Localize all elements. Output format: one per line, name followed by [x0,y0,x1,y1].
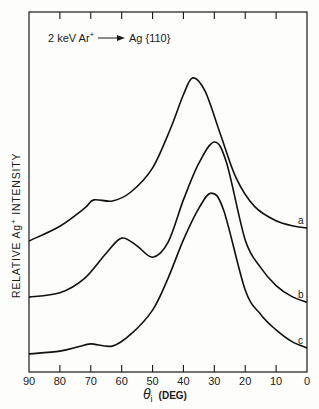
curve-a [29,78,307,241]
curve-labels: abc [298,215,304,346]
x-axis-tick-labels: 9080706050403020100 [23,375,310,387]
curves [29,78,307,354]
y-axis-label: RELATIVE Ag+ INTENSITY [9,153,22,298]
curve-label-c: c [298,335,303,346]
x-axis-label: θi(DEG) [143,386,187,404]
x-tick-label: 10 [270,375,282,387]
x-tick-label: 90 [23,375,35,387]
annotation: 2 keV Ar+ [48,30,95,44]
x-tick-label: 0 [304,375,310,387]
x-tick-label: 70 [85,375,97,387]
curve-label-a: a [298,215,304,226]
curve-label-b: b [298,289,304,300]
x-tick-label: 80 [54,375,66,387]
annotation-target: Ag {110} [129,32,171,44]
plot-frame [29,12,307,372]
x-tick-label: 40 [177,375,189,387]
x-tick-label: 60 [116,375,128,387]
chart: 9080706050403020100 abc 2 keV Ar+ Ag {11… [0,0,319,409]
x-tick-label: 30 [208,375,220,387]
arrow-icon [98,35,125,41]
x-tick-label: 20 [239,375,251,387]
